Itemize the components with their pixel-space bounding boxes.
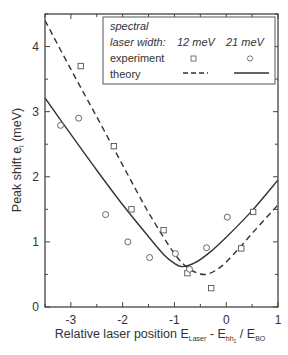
x-tick-label: -1 — [169, 313, 180, 327]
circle-marker-icon — [103, 212, 109, 218]
legend-row-experiment: experiment — [110, 52, 164, 64]
circle-marker-icon — [172, 251, 178, 257]
legend-title-line2: laser width: — [110, 36, 166, 48]
legend-col-21mev: 21 meV — [225, 36, 266, 48]
square-marker-icon — [78, 63, 83, 68]
x-tick-label: 0 — [223, 313, 230, 327]
y-tick-label: 3 — [32, 105, 39, 119]
experiment-markers — [58, 63, 256, 290]
x-axis-label: Relative laser position ELaser - Ehh1 / … — [55, 327, 266, 344]
circle-marker-icon — [58, 122, 64, 128]
circle-marker-icon — [186, 266, 192, 272]
y-axis-label: Peak shift el (meV) — [10, 108, 25, 212]
y-tick-label: 2 — [32, 170, 39, 184]
legend-row-theory: theory — [110, 68, 141, 80]
legend: spectral laser width: 12 meV 21 meV expe… — [103, 17, 275, 84]
y-tick-label: 0 — [32, 300, 39, 314]
square-marker-icon — [111, 143, 116, 148]
legend-square-marker-icon — [191, 56, 196, 61]
x-tick-label: 1 — [275, 313, 282, 327]
circle-marker-icon — [204, 245, 210, 251]
y-tick-label: 1 — [32, 235, 39, 249]
square-marker-icon — [250, 209, 255, 214]
y-tick-label: 4 — [32, 40, 39, 54]
circle-marker-icon — [224, 214, 230, 220]
x-tick-label: -3 — [66, 313, 77, 327]
legend-title-line1: spectral — [110, 20, 149, 32]
square-marker-icon — [239, 246, 244, 251]
circle-marker-icon — [147, 255, 153, 261]
y-tick-labels: 01234 — [32, 40, 39, 314]
circle-marker-icon — [125, 239, 131, 245]
chart: -3-2-101 01234 spectral laser width: 12 … — [0, 0, 288, 355]
legend-circle-marker-icon — [247, 56, 252, 61]
theory-21mev-solid-curve — [45, 98, 278, 267]
legend-col-12mev: 12 meV — [177, 36, 217, 48]
square-marker-icon — [161, 227, 166, 232]
circle-marker-icon — [76, 115, 82, 121]
x-tick-label: -2 — [117, 313, 128, 327]
x-tick-labels: -3-2-101 — [66, 313, 282, 327]
square-marker-icon — [209, 285, 214, 290]
square-marker-icon — [129, 207, 134, 212]
